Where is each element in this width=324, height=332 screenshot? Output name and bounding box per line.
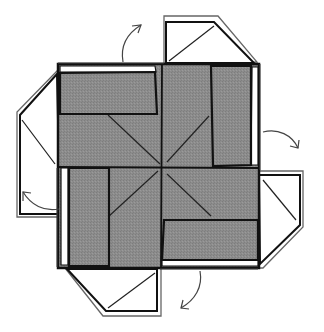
right-flap xyxy=(259,171,303,268)
top-flap xyxy=(164,16,257,63)
right-unfold-arrow xyxy=(263,131,299,148)
left-flap xyxy=(17,71,62,217)
fold-diagram xyxy=(0,0,324,332)
panel-bottom-left xyxy=(69,168,109,266)
panel-top-right xyxy=(211,66,251,166)
bottom-flap xyxy=(65,268,161,316)
panel-bottom-right xyxy=(162,220,258,260)
panel-top-left xyxy=(60,72,157,114)
bottom-unfold-arrow xyxy=(181,271,201,309)
top-unfold-arrow xyxy=(122,25,141,62)
